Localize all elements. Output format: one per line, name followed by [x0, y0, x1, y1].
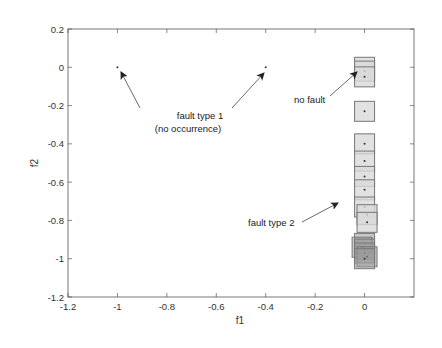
- y-tick-label: 0.2: [51, 24, 64, 35]
- x-axis-label: f1: [236, 315, 245, 326]
- annotation-no-occurrence: (no occurrence): [155, 123, 222, 134]
- point-marker: [364, 189, 366, 191]
- arrow-no-fault: [330, 72, 357, 96]
- x-tick-label: -1: [113, 301, 121, 312]
- arrow-fault-type-1-right: [232, 73, 264, 108]
- x-tick-label: -0.8: [159, 301, 175, 312]
- y-axis-label: f2: [29, 158, 40, 167]
- annotations: fault type 1 (no occurrence) no fault fa…: [121, 72, 357, 228]
- y-tick-label: -1.2: [48, 292, 64, 303]
- arrow-fault-type-1-left: [121, 72, 140, 108]
- annotation-fault-type-2: fault type 2: [248, 217, 294, 228]
- point-marker: [364, 110, 366, 112]
- y-tick-label: -1: [56, 253, 64, 264]
- point-marker: [364, 143, 366, 145]
- y-tick-label: -0.4: [48, 138, 64, 149]
- x-tick-label: -1.2: [60, 301, 76, 312]
- x-tick-label: -0.2: [307, 301, 323, 312]
- point-marker: [366, 221, 368, 223]
- point-marker: [364, 160, 366, 162]
- point-marker: [265, 66, 267, 68]
- annotation-fault-type-1: fault type 1: [177, 110, 223, 121]
- arrow-fault-type-2: [302, 203, 338, 222]
- y-tick-label: -0.8: [48, 215, 64, 226]
- point-marker: [364, 175, 366, 177]
- y-tick-label: 0: [59, 62, 64, 73]
- scatter-chart: -1.2-1-0.8-0.6-0.4-0.20 0.20-0.2-0.4-0.6…: [0, 0, 442, 348]
- point-marker: [364, 76, 366, 78]
- y-tick-label: -0.6: [48, 177, 64, 188]
- x-tick-label: -0.4: [258, 301, 274, 312]
- x-tick-label: 0: [362, 301, 367, 312]
- x-tick-label: -0.6: [208, 301, 224, 312]
- x-axis: -1.2-1-0.8-0.6-0.4-0.20: [60, 29, 367, 312]
- point-marker: [364, 258, 366, 260]
- y-tick-label: -0.2: [48, 100, 64, 111]
- annotation-no-fault: no fault: [294, 94, 326, 105]
- point-marker: [116, 66, 118, 68]
